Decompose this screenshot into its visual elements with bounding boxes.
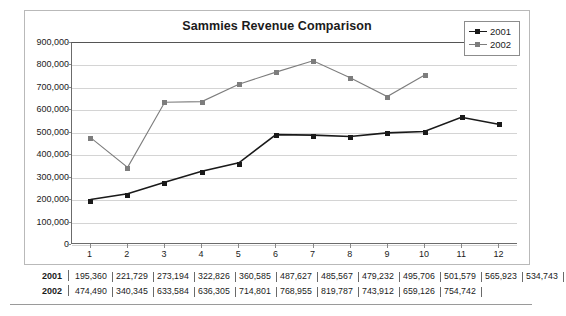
- data-point-2001-1: [88, 199, 93, 204]
- table-separator: [68, 270, 69, 281]
- table-cell: 714,801: [238, 286, 279, 296]
- table-cell: 273,194: [156, 271, 197, 281]
- y-axis-tick-label: 600,000: [9, 104, 69, 114]
- data-point-2002-7: [311, 59, 316, 64]
- y-axis-tick-label: 800,000: [9, 59, 69, 69]
- x-axis-tick-label: 10: [404, 249, 444, 259]
- y-axis-tick-label: 500,000: [9, 127, 69, 137]
- x-axis-tick-label: 5: [218, 249, 258, 259]
- x-axis-tick-label: 7: [293, 249, 333, 259]
- bottom-divider: [10, 304, 532, 305]
- x-axis-tick: [387, 244, 388, 248]
- table-cell: 322,826: [197, 271, 238, 281]
- data-point-2001-11: [460, 115, 465, 120]
- table-cell: 768,955: [279, 286, 320, 296]
- x-axis-tick: [201, 244, 202, 248]
- plot-area: [71, 42, 517, 244]
- x-axis-tick: [238, 244, 239, 248]
- x-axis-tick: [275, 244, 276, 248]
- x-axis-tick: [313, 244, 314, 248]
- data-point-2002-5: [237, 82, 242, 87]
- table-cell: 495,706: [402, 271, 443, 281]
- chart-title: Sammies Revenue Comparison: [25, 19, 529, 33]
- table-cell: 221,729: [115, 271, 156, 281]
- table-row-label: 2001: [24, 271, 68, 281]
- data-point-2001-8: [348, 135, 353, 140]
- data-point-2001-5: [237, 162, 242, 167]
- data-point-2001-3: [162, 181, 167, 186]
- table-row: 2002474,490340,345633,584636,305714,8017…: [24, 283, 536, 298]
- x-axis-tick-label: 3: [144, 249, 184, 259]
- table-row: 2001195,360221,729273,194322,826360,5854…: [24, 268, 536, 283]
- table-cell: 636,305: [197, 286, 238, 296]
- table-cell: 659,126: [402, 286, 443, 296]
- data-point-2001-7: [311, 134, 316, 139]
- data-point-2001-4: [200, 170, 205, 175]
- chart-frame: Sammies Revenue Comparison 0100,000200,0…: [24, 10, 530, 265]
- x-axis-tick: [424, 244, 425, 248]
- data-point-2002-2: [125, 166, 130, 171]
- y-axis-tick-label: 400,000: [9, 149, 69, 159]
- legend-marker-icon-2001: [469, 27, 487, 36]
- legend-entry-2002[interactable]: 2002: [469, 38, 515, 51]
- table-cell: 743,912: [361, 286, 402, 296]
- data-point-2002-4: [200, 100, 205, 105]
- table-cell: 360,585: [238, 271, 279, 281]
- x-axis-tick-label: 8: [330, 249, 370, 259]
- table-cell: 633,584: [156, 286, 197, 296]
- data-point-2002-6: [274, 70, 279, 75]
- legend-entry-2001[interactable]: 2001: [469, 25, 515, 38]
- data-point-2002-9: [385, 95, 390, 100]
- data-point-2002-8: [348, 76, 353, 81]
- data-point-2001-6: [274, 133, 279, 138]
- x-axis-tick: [350, 244, 351, 248]
- x-axis-tick-label: 6: [255, 249, 295, 259]
- y-axis-tick-label: 700,000: [9, 82, 69, 92]
- chart-legend: 2001 2002: [464, 21, 520, 56]
- x-axis-tick-label: 12: [478, 249, 518, 259]
- series-markers: [72, 43, 517, 243]
- legend-label-2002: 2002: [490, 39, 511, 50]
- x-axis-tick-label: 4: [181, 249, 221, 259]
- x-axis-tick: [90, 244, 91, 248]
- y-axis-tick-label: 0: [9, 239, 69, 249]
- y-axis-tick-label: 200,000: [9, 194, 69, 204]
- gridline: [72, 245, 517, 246]
- table-cell: 195,360: [74, 271, 115, 281]
- y-axis-tick-label: 100,000: [9, 217, 69, 227]
- table-cell: 479,232: [361, 271, 402, 281]
- table-cell: 474,490: [74, 286, 115, 296]
- table-cell: 340,345: [115, 286, 156, 296]
- data-point-2001-2: [125, 193, 130, 198]
- table-cell: 754,742: [443, 286, 484, 296]
- table-cell: 534,743: [525, 271, 566, 281]
- table-row-label: 2002: [24, 286, 68, 296]
- x-axis-tick-label: 2: [107, 249, 147, 259]
- data-point-2001-10: [423, 130, 428, 135]
- data-point-2002-3: [162, 100, 167, 105]
- y-axis-tick: [67, 244, 71, 245]
- x-axis-tick-label: 9: [367, 249, 407, 259]
- table-cell: 819,787: [320, 286, 361, 296]
- x-axis-tick-label: 1: [70, 249, 110, 259]
- x-axis-tick-label: 11: [441, 249, 481, 259]
- table-cell: 485,567: [320, 271, 361, 281]
- y-axis-labels: 0100,000200,000300,000400,000500,000600,…: [9, 42, 69, 244]
- table-cell: 487,627: [279, 271, 320, 281]
- x-axis-tick: [498, 244, 499, 248]
- x-axis-tick: [127, 244, 128, 248]
- data-point-2002-10: [423, 73, 428, 78]
- x-axis-tick: [164, 244, 165, 248]
- legend-marker-icon-2002: [469, 40, 487, 49]
- x-axis-tick: [461, 244, 462, 248]
- table-cell: 565,923: [484, 271, 525, 281]
- data-point-2001-12: [497, 122, 502, 127]
- table-cell: 501,579: [443, 271, 484, 281]
- data-table: 2001195,360221,729273,194322,826360,5854…: [24, 268, 536, 298]
- data-point-2002-1: [88, 136, 93, 141]
- data-point-2001-9: [385, 131, 390, 136]
- y-axis-tick-label: 900,000: [9, 37, 69, 47]
- legend-label-2001: 2001: [490, 26, 511, 37]
- y-axis-tick-label: 300,000: [9, 172, 69, 182]
